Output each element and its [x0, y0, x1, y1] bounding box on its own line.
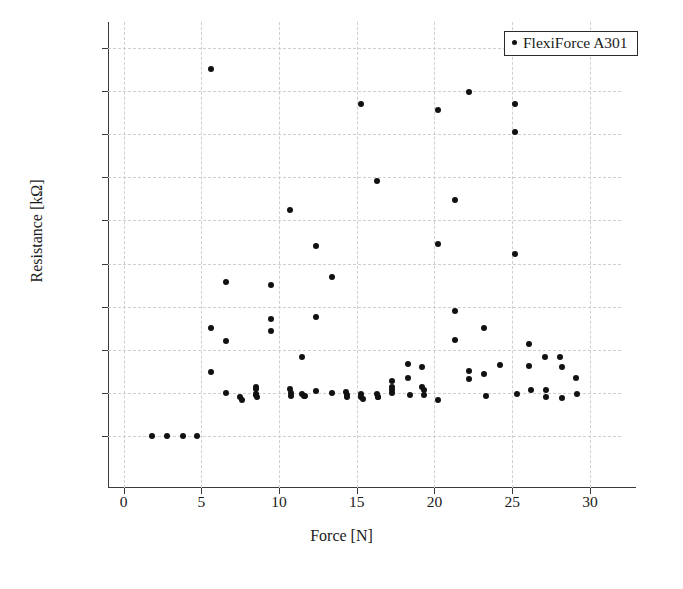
- data-point: [526, 363, 532, 369]
- data-point: [389, 378, 395, 384]
- data-point: [344, 394, 350, 400]
- x-tick-label: 30: [560, 494, 620, 510]
- y-axis-title: Resistance [kΩ]: [28, 61, 46, 401]
- legend-label: FlexiForce A301: [523, 35, 628, 51]
- data-point: [483, 393, 489, 399]
- data-point: [452, 308, 458, 314]
- data-point: [466, 368, 472, 374]
- x-tick-label: 25: [482, 494, 542, 510]
- gridline-horizontal: [108, 264, 621, 265]
- tick-mark-y: [102, 436, 108, 437]
- data-point: [208, 369, 214, 375]
- data-point: [466, 376, 472, 382]
- data-point: [287, 207, 293, 213]
- data-point: [481, 371, 487, 377]
- data-point: [375, 394, 381, 400]
- data-point: [302, 393, 308, 399]
- gridline-horizontal: [108, 220, 621, 221]
- x-tick-label: 5: [171, 494, 231, 510]
- tick-mark-y: [102, 350, 108, 351]
- data-point: [466, 89, 472, 95]
- data-point: [559, 395, 565, 401]
- tick-mark-y: [102, 134, 108, 135]
- data-point: [497, 362, 503, 368]
- x-tick-label: 15: [327, 494, 387, 510]
- gridline-horizontal: [108, 177, 621, 178]
- x-tick-label: 20: [404, 494, 464, 510]
- data-point: [149, 433, 155, 439]
- data-point: [358, 101, 364, 107]
- data-point: [543, 394, 549, 400]
- tick-mark-y: [102, 264, 108, 265]
- tick-mark-y: [102, 48, 108, 49]
- tick-mark-y: [102, 177, 108, 178]
- data-point: [208, 66, 214, 72]
- gridline-vertical: [434, 22, 435, 488]
- data-point: [389, 390, 395, 396]
- gridline-horizontal: [108, 134, 621, 135]
- gridline-vertical: [357, 22, 358, 488]
- data-point: [329, 274, 335, 280]
- data-point: [299, 354, 305, 360]
- data-point: [405, 375, 411, 381]
- tick-mark-y: [102, 91, 108, 92]
- data-point: [407, 392, 413, 398]
- scatter-plot-figure: 01,0002,0003,0004,0005,0006,0007,0008,00…: [0, 0, 683, 589]
- data-point: [268, 328, 274, 334]
- data-point: [194, 433, 200, 439]
- gridline-horizontal: [108, 350, 621, 351]
- data-point: [239, 397, 245, 403]
- data-point: [559, 364, 565, 370]
- gridline-vertical: [124, 22, 125, 488]
- data-point: [374, 178, 380, 184]
- tick-mark-y: [102, 307, 108, 308]
- data-point: [481, 325, 487, 331]
- data-point: [208, 325, 214, 331]
- tick-mark-y: [102, 220, 108, 221]
- data-point: [288, 393, 294, 399]
- data-point: [573, 375, 579, 381]
- legend-marker-icon: [512, 40, 517, 45]
- data-point: [329, 390, 335, 396]
- data-point: [557, 354, 563, 360]
- data-point: [435, 107, 441, 113]
- data-point: [421, 392, 427, 398]
- data-point: [512, 251, 518, 257]
- gridline-vertical: [279, 22, 280, 488]
- data-point: [223, 279, 229, 285]
- data-point: [268, 282, 274, 288]
- data-point: [223, 390, 229, 396]
- data-point: [360, 396, 366, 402]
- data-point: [313, 243, 319, 249]
- gridline-horizontal: [108, 91, 621, 92]
- data-point: [528, 387, 534, 393]
- data-point: [180, 433, 186, 439]
- data-point: [512, 101, 518, 107]
- data-point: [405, 361, 411, 367]
- gridline-vertical: [201, 22, 202, 488]
- data-point: [268, 316, 274, 322]
- data-point: [452, 337, 458, 343]
- x-tick-label: 10: [249, 494, 309, 510]
- x-tick-label: 0: [94, 494, 154, 510]
- data-point: [435, 241, 441, 247]
- data-point: [526, 341, 532, 347]
- data-point: [514, 391, 520, 397]
- plot-area: [108, 22, 621, 488]
- data-point: [313, 314, 319, 320]
- data-point: [419, 364, 425, 370]
- data-point: [164, 433, 170, 439]
- data-point: [223, 338, 229, 344]
- data-point: [574, 391, 580, 397]
- gridline-horizontal: [108, 307, 621, 308]
- data-point: [254, 394, 260, 400]
- x-axis-title: Force [N]: [0, 527, 683, 545]
- data-point: [452, 197, 458, 203]
- legend: FlexiForce A301: [504, 31, 638, 56]
- data-point: [542, 354, 548, 360]
- data-point: [435, 397, 441, 403]
- tick-mark-y: [102, 393, 108, 394]
- gridline-vertical: [590, 22, 591, 488]
